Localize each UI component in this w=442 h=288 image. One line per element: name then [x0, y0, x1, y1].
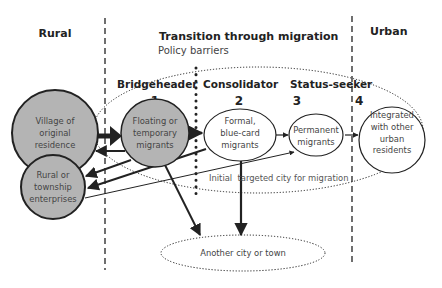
svg-text:temporary: temporary [133, 128, 177, 138]
svg-text:Integrated: Integrated [370, 110, 414, 120]
svg-text:Formal,: Formal, [224, 116, 255, 126]
svg-text:with other: with other [371, 122, 414, 132]
migration-stages-diagram: Rural Transition through migration Polic… [0, 0, 442, 288]
stage-consolidator-label: Consolidator [203, 78, 279, 90]
arrow-floating-to-another-city [165, 165, 200, 235]
svg-text:Village of: Village of [36, 116, 76, 126]
svg-text:Permanent: Permanent [293, 125, 339, 135]
stage-bridgeheader-label: Bridgeheader [117, 78, 198, 90]
initial-targeted-city-label: Initial targeted city for migration [209, 173, 349, 183]
node-rural-or-township-enterprises: Rural or township enterprises [21, 155, 85, 219]
svg-text:Floating or: Floating or [133, 116, 178, 126]
node-permanent-migrants: Permanent migrants [289, 114, 343, 156]
node-floating-or-temporary-migrants: Floating or temporary migrants [121, 99, 189, 167]
svg-text:migrants: migrants [136, 140, 173, 150]
svg-text:urban: urban [380, 134, 405, 144]
svg-text:enterprises: enterprises [29, 194, 76, 204]
svg-text:migrants: migrants [221, 140, 258, 150]
svg-text:migrants: migrants [297, 137, 334, 147]
region-urban-label: Urban [370, 25, 408, 38]
stage-2-number: 2 [235, 94, 243, 108]
stage-status-seeker-label: Status-seeker [290, 78, 373, 90]
node-formal-blue-card-migrants: Formal, blue-card migrants [204, 109, 276, 161]
svg-text:original: original [39, 128, 70, 138]
svg-text:blue-card: blue-card [220, 128, 259, 138]
svg-text:residence: residence [35, 140, 76, 150]
arrow-floating-to-enterprises [86, 160, 131, 176]
another-city-label: Another city or town [200, 248, 286, 258]
svg-text:Rural or: Rural or [37, 170, 70, 180]
arrow-head-village-to-floating [110, 126, 122, 146]
svg-text:township: township [34, 182, 72, 192]
node-integrated-urban-residents: Integrated with other urban residents [359, 107, 425, 173]
region-transition-label: Transition through migration [159, 30, 338, 43]
policy-barriers-label: Policy barriers [158, 45, 229, 56]
stage-3-number: 3 [293, 94, 301, 108]
stage-4-number: 4 [355, 94, 363, 108]
region-rural-label: Rural [39, 27, 72, 40]
svg-text:residents: residents [373, 145, 412, 155]
